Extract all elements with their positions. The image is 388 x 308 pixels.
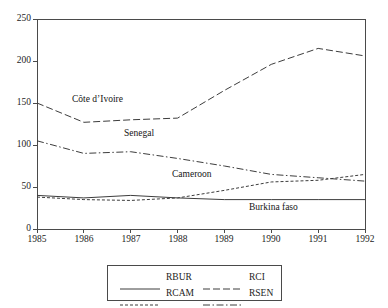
annotation-burkina-faso: Burkina faso [249,203,298,213]
legend-label: RCAM [166,287,194,299]
legend-line-sample-rci [203,276,243,278]
annotation-c-te-d-ivoire: Côte d’Ivoire [72,95,123,105]
legend-entries: RBURRCIRCAMRSEN [108,266,281,300]
chart-figure: 250200150100500 198519861987198819891990… [0,0,388,308]
x-tick-label: 1989 [204,235,244,245]
y-tick-label: 200 [5,56,31,66]
series-line-rbur [37,195,365,199]
x-tick-label: 1991 [298,235,338,245]
annotation-cameroon: Cameroon [172,170,212,180]
x-tick-label: 1992 [345,235,385,245]
chart-legend: RBURRCIRCAMRSEN [107,265,282,301]
x-tick-label: 1987 [111,235,151,245]
y-tick-label: 50 [5,182,31,192]
x-tick-label: 1986 [64,235,104,245]
y-axis-tick-marks [33,19,37,229]
x-axis-tick-marks [37,229,365,233]
series-line-rci [37,48,365,122]
x-tick-label: 1985 [17,235,57,245]
y-tick-label: 0 [5,224,31,234]
legend-label: RCI [249,271,265,283]
legend-label: RBUR [166,271,192,283]
legend-label: RSEN [249,287,273,299]
x-tick-label: 1988 [158,235,198,245]
legend-line-sample-rbur [120,276,160,278]
y-tick-label: 100 [5,140,31,150]
legend-line-sample-rsen [203,292,243,294]
y-tick-label: 150 [5,98,31,108]
annotation-senegal: Senegal [124,129,154,139]
y-tick-label: 250 [5,14,31,24]
x-tick-label: 1990 [251,235,291,245]
legend-line-sample-rcam [120,292,160,294]
line-chart-plot [0,0,388,308]
